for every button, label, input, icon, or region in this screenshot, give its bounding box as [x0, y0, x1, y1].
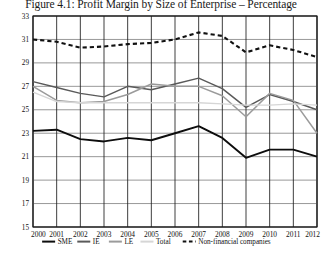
line-chart: 33312927252321191715 2000200120022003200…: [0, 0, 322, 254]
x-tick-label: 2011: [286, 230, 301, 239]
y-tick-label: 23: [22, 130, 30, 138]
x-axis-tick-labels: 2000200120022003200420052006200720082009…: [31, 230, 320, 239]
legend-label: Non-financial companies: [198, 238, 271, 246]
y-tick-label: 21: [22, 153, 30, 161]
legend-label: LE: [124, 238, 133, 246]
y-tick-label: 15: [22, 224, 30, 232]
y-tick-label: 19: [22, 177, 30, 185]
y-tick-label: 31: [22, 36, 30, 44]
y-tick-label: 25: [22, 106, 30, 114]
y-tick-label: 17: [22, 200, 30, 208]
legend-label: IE: [93, 238, 100, 246]
figure-container: Figure 4.1: Profit Margin by Size of Ent…: [0, 0, 322, 254]
x-tick-label: 2002: [73, 230, 88, 239]
x-tick-label: 2012: [305, 230, 320, 239]
legend-label: Total: [156, 238, 171, 246]
y-tick-label: 29: [22, 59, 30, 67]
y-tick-label: 27: [22, 83, 30, 91]
chart-legend: SMEIELETotalNon-financial companies: [42, 238, 271, 246]
y-axis-tick-labels: 33312927252321191715: [22, 13, 30, 232]
legend-label: SME: [58, 238, 73, 246]
y-tick-label: 33: [22, 13, 30, 21]
x-tick-label: 2000: [31, 230, 46, 239]
